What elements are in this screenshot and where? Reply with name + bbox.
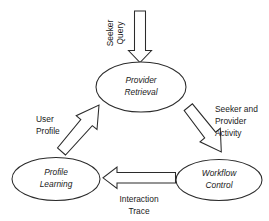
node-provider-retrieval-label-line2: Retrieval (124, 87, 158, 97)
flow-diagram: Seeker Query Seeker and Provider Activit… (0, 0, 269, 221)
node-profile-learning[interactable]: Profile Learning (12, 158, 100, 201)
edge-label-activity-line2: Provider (215, 116, 246, 126)
node-workflow-control[interactable]: Workflow Control (176, 160, 262, 201)
edge-label-user-profile-line1: User (36, 114, 54, 124)
edge-interaction-trace: Interaction Trace (103, 167, 176, 216)
arrow-seeker-query (129, 11, 152, 63)
node-profile-learning-label-line1: Profile (44, 167, 68, 177)
arrow-user-profile (58, 105, 100, 155)
node-workflow-control-label-line2: Control (206, 180, 234, 190)
edge-label-activity-line3: Activity (215, 128, 242, 138)
arrow-interaction-trace (103, 167, 176, 189)
node-provider-retrieval-label-line1: Provider (125, 75, 157, 85)
edge-seeker-query: Seeker Query (105, 11, 151, 63)
node-workflow-control-label-line1: Workflow (202, 168, 237, 178)
diagram-canvas: Seeker Query Seeker and Provider Activit… (0, 0, 269, 221)
node-profile-learning-label-line2: Learning (40, 179, 73, 189)
node-provider-retrieval[interactable]: Provider Retrieval (96, 62, 186, 112)
edge-label-activity-line1: Seeker and (215, 104, 258, 114)
edge-seeker-and-provider-activity: Seeker and Provider Activity (184, 104, 258, 152)
edge-label-interaction-trace-line2: Trace (128, 206, 149, 216)
edge-user-profile: User Profile (36, 105, 99, 155)
edge-label-seeker-query-line2: Query (115, 21, 125, 45)
edge-label-user-profile-line2: Profile (36, 126, 60, 136)
edge-label-interaction-trace-line1: Interaction (119, 194, 158, 204)
edge-label-seeker-query-line1: Seeker (105, 20, 115, 47)
